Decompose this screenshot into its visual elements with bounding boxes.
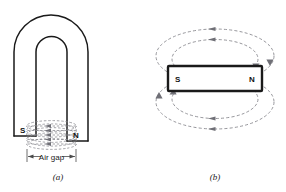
- panel-b-bar-magnet: S N (b): [145, 0, 286, 192]
- caption-b: (b): [210, 172, 221, 182]
- caption-a: (a): [53, 172, 64, 182]
- horseshoe-magnet-body: [14, 15, 88, 141]
- panel-a-horseshoe-magnet: S N Air gap (a): [0, 0, 145, 192]
- field-arrowheads-below: [208, 116, 216, 131]
- south-pole-label-a: S: [20, 126, 26, 135]
- air-gap-label: Air gap: [39, 153, 65, 162]
- air-gap-flux-lines: [27, 121, 77, 150]
- south-pole-label-b: S: [175, 75, 181, 84]
- air-gap-flux-arrowheads: [45, 124, 51, 146]
- bar-magnet-body: [168, 66, 262, 91]
- north-pole-label-b: N: [249, 75, 255, 84]
- north-pole-label-a: N: [73, 131, 79, 140]
- figure-root: S N Air gap (a): [0, 0, 286, 192]
- field-arrowheads-above: [208, 27, 216, 42]
